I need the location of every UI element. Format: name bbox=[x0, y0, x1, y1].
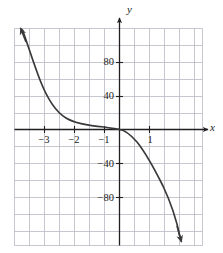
y-tick-label-neg80: −80 bbox=[94, 193, 114, 204]
y-tick-label-40: 40 bbox=[98, 91, 114, 102]
x-tick-label-neg3: −3 bbox=[38, 135, 49, 146]
plot-canvas bbox=[0, 0, 223, 253]
x-tick-label-neg2: −2 bbox=[68, 135, 79, 146]
x-tick-label-pos1: 1 bbox=[147, 135, 152, 146]
y-tick-label-neg40: −40 bbox=[94, 159, 114, 170]
graph-figure: y x −3 −2 −1 1 80 40 −40 −80 bbox=[0, 0, 223, 253]
x-tick-label-neg1: −1 bbox=[98, 135, 109, 146]
y-tick-label-80: 80 bbox=[98, 57, 114, 68]
x-axis-label: x bbox=[210, 122, 215, 133]
y-axis-label: y bbox=[127, 4, 132, 15]
